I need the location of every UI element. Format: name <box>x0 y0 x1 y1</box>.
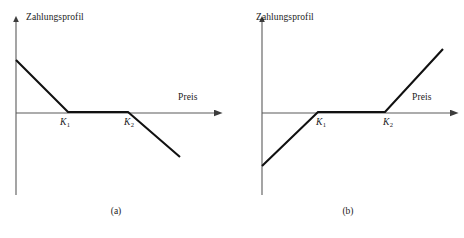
y-axis-label: Zahlungsprofil <box>256 12 314 22</box>
payoff-diagram-figure: Zahlungsprofil Preis K1 K2 (a) Zahlu <box>0 0 464 238</box>
panel-a: Zahlungsprofil Preis K1 K2 (a) <box>0 0 232 238</box>
strike-subscript: 2 <box>131 121 134 128</box>
strike-subscript: 2 <box>390 121 393 128</box>
strike-symbol: K <box>383 117 389 127</box>
strike-label-k1: K1 <box>60 117 70 127</box>
payoff-curve <box>16 60 180 157</box>
strike-subscript: 1 <box>323 121 326 128</box>
payoff-curve <box>262 49 443 166</box>
x-axis-label: Preis <box>412 92 432 102</box>
panel-b-plot <box>232 0 464 205</box>
panel-caption-b: (b) <box>232 206 464 216</box>
strike-label-k2: K2 <box>124 117 134 127</box>
strike-symbol: K <box>124 117 130 127</box>
strike-subscript: 1 <box>67 121 70 128</box>
strike-label-k1: K1 <box>316 117 326 127</box>
panel-a-plot <box>0 0 232 205</box>
panel-caption-a: (a) <box>0 206 232 216</box>
x-axis-label: Preis <box>178 92 198 102</box>
panel-b: Zahlungsprofil Preis K1 K2 (b) <box>232 0 464 238</box>
strike-symbol: K <box>60 117 66 127</box>
y-axis-label: Zahlungsprofil <box>26 12 84 22</box>
strike-symbol: K <box>316 117 322 127</box>
strike-label-k2: K2 <box>383 117 393 127</box>
